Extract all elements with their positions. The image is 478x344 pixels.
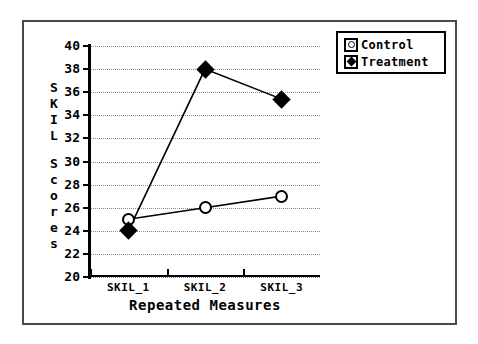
y-axis-tick-label: 26 bbox=[54, 201, 80, 214]
chart-page: SKILScores Repeated Measures Control Tre… bbox=[0, 0, 478, 344]
legend-label-control: Control bbox=[361, 38, 414, 52]
data-point-control-skil_2 bbox=[199, 201, 212, 214]
y-axis-tick bbox=[83, 68, 90, 70]
y-axis-tick-label: 38 bbox=[54, 62, 80, 75]
x-axis-tick-label: SKIL_3 bbox=[242, 281, 322, 294]
y-axis-tick bbox=[83, 184, 90, 186]
x-axis-tick-label: SKIL_1 bbox=[88, 281, 168, 294]
gridline bbox=[90, 254, 320, 255]
y-axis-tick bbox=[83, 45, 90, 47]
x-axis-tick-label: SKIL_2 bbox=[165, 281, 245, 294]
x-axis-tick bbox=[167, 269, 169, 277]
gridline bbox=[90, 138, 320, 139]
y-axis-tick-label: 28 bbox=[54, 178, 80, 191]
y-axis-tick-label: 32 bbox=[54, 131, 80, 144]
y-axis-tick-label: 34 bbox=[54, 108, 80, 121]
y-axis-tick bbox=[83, 161, 90, 163]
x-axis-tick bbox=[90, 269, 92, 277]
legend-entry-treatment[interactable]: Treatment bbox=[344, 53, 444, 70]
y-axis-tick bbox=[83, 137, 90, 139]
y-axis-tick-label: 36 bbox=[54, 85, 80, 98]
y-axis-tick bbox=[83, 91, 90, 93]
x-axis-title: Repeated Measures bbox=[90, 297, 320, 313]
y-axis-tick-label: 30 bbox=[54, 155, 80, 168]
gridline bbox=[90, 277, 320, 278]
data-point-control-skil_3 bbox=[275, 190, 288, 203]
y-axis-tick bbox=[83, 114, 90, 116]
open-circle-key-icon bbox=[344, 38, 358, 52]
x-axis-tick bbox=[243, 269, 245, 277]
x-axis-line bbox=[88, 275, 320, 277]
plot-area bbox=[90, 46, 320, 277]
y-axis-tick-label: 22 bbox=[54, 247, 80, 260]
gridline bbox=[90, 115, 320, 116]
y-axis-tick bbox=[83, 207, 90, 209]
gridline bbox=[90, 92, 320, 93]
y-axis-tick bbox=[83, 276, 90, 278]
filled-diamond-key-icon bbox=[344, 55, 358, 69]
y-axis-tick bbox=[83, 253, 90, 255]
legend-entry-control[interactable]: Control bbox=[344, 36, 444, 53]
gridline bbox=[90, 162, 320, 163]
legend-label-treatment: Treatment bbox=[361, 55, 429, 69]
y-axis-tick-label: 20 bbox=[54, 270, 80, 283]
gridline bbox=[90, 185, 320, 186]
y-axis-tick-label: 40 bbox=[54, 39, 80, 52]
y-axis-tick bbox=[83, 230, 90, 232]
chart-legend: Control Treatment bbox=[336, 31, 446, 74]
gridline bbox=[90, 46, 320, 47]
y-axis-tick-label: 24 bbox=[54, 224, 80, 237]
